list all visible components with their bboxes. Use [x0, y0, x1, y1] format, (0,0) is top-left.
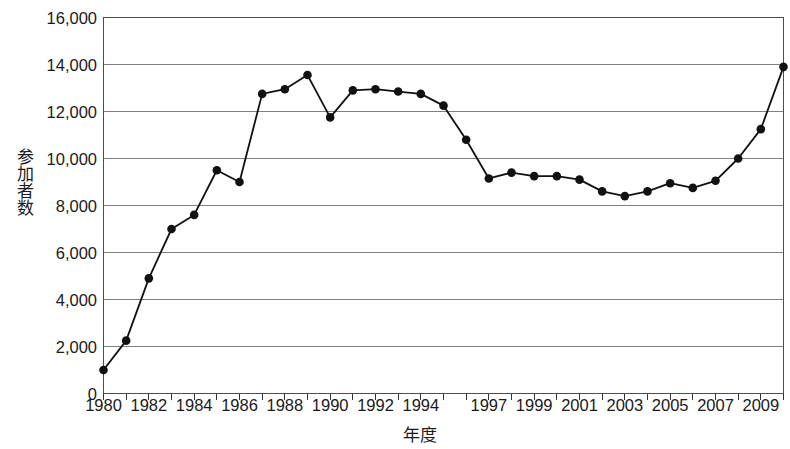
data-point — [462, 135, 471, 144]
data-point — [417, 90, 426, 99]
x-tick-label: 1986 — [221, 396, 258, 415]
x-axis-tick-labels: 1980198219841986198819901992199419971999… — [0, 396, 790, 420]
x-tick-label: 1988 — [266, 396, 303, 415]
data-point — [507, 168, 516, 177]
data-point — [553, 172, 562, 181]
x-tick-label: 2007 — [697, 396, 734, 415]
x-tick-label: 1994 — [402, 396, 439, 415]
data-point — [598, 187, 607, 196]
data-point — [575, 175, 584, 184]
data-point — [621, 192, 630, 201]
data-point — [213, 166, 222, 175]
data-point — [235, 178, 244, 187]
data-point — [371, 85, 380, 94]
x-tick-label: 2005 — [652, 396, 689, 415]
plot-area — [0, 0, 790, 449]
x-tick-label: 1992 — [357, 396, 394, 415]
data-point — [485, 174, 494, 183]
data-point — [99, 366, 108, 375]
x-tick-label: 1982 — [130, 396, 167, 415]
x-tick-label: 2009 — [742, 396, 779, 415]
data-point — [349, 86, 358, 95]
data-point — [757, 125, 766, 134]
data-point — [190, 211, 199, 220]
series-line-participants — [104, 67, 784, 370]
data-point — [326, 113, 335, 122]
data-point — [530, 172, 539, 181]
x-axis-title: 年度 — [0, 421, 790, 446]
data-point — [258, 90, 267, 99]
data-point — [643, 187, 652, 196]
data-point — [439, 101, 448, 110]
x-tick-label: 1999 — [516, 396, 553, 415]
x-tick-label: 1997 — [470, 396, 507, 415]
x-tick-label: 2001 — [561, 396, 598, 415]
data-point — [734, 154, 743, 163]
line-chart: 参加者数 16,00014,00012,00010,0008,0006,0004… — [0, 0, 790, 449]
data-point — [145, 274, 154, 283]
x-tick-label: 1980 — [85, 396, 122, 415]
data-point — [122, 336, 131, 345]
data-point — [711, 177, 720, 186]
data-point — [779, 63, 788, 72]
data-point — [303, 71, 312, 80]
x-tick-label: 1984 — [176, 396, 213, 415]
data-point — [689, 184, 698, 193]
series-markers-participants — [99, 63, 788, 375]
x-tick-label: 1990 — [312, 396, 349, 415]
data-point — [666, 179, 675, 188]
data-point — [394, 87, 403, 96]
x-tick-label: 2003 — [606, 396, 643, 415]
data-point — [167, 225, 176, 234]
data-point — [281, 85, 290, 94]
